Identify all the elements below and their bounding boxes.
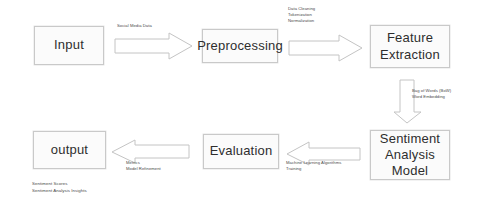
arrow-input-to-preprocessing	[115, 33, 193, 59]
node-feature-extraction[interactable]: Feature Extraction	[370, 25, 450, 68]
node-sentiment-analysis-model[interactable]: Sentiment Analysis Model	[370, 130, 450, 180]
flowchart-canvas: Input Social Media Data Preprocessing Da…	[0, 0, 494, 206]
node-preprocessing-label: Preprocessing	[193, 38, 287, 54]
output-caption: Sentiment Scores Sentiment Analysis Insi…	[32, 181, 142, 194]
node-input[interactable]: Input	[34, 26, 104, 65]
node-feature-extraction-label: Feature Extraction	[376, 30, 444, 63]
node-evaluation[interactable]: Evaluation	[203, 134, 279, 169]
edge-label-machine-learning: Machine Learning Algorithms Training	[286, 160, 364, 172]
arrow-feature-extraction-to-model	[394, 80, 422, 124]
node-sentiment-analysis-model-label: Sentiment Analysis Model	[376, 131, 444, 180]
edge-label-metrics: Metrics Model Refinement	[126, 160, 196, 172]
node-preprocessing[interactable]: Preprocessing	[202, 29, 278, 63]
node-input-label: Input	[50, 37, 88, 53]
arrow-preprocessing-to-feature-extraction	[289, 35, 363, 61]
edge-label-bag-of-words: Bag of Words (BoW) Word Embedding	[412, 88, 488, 100]
node-output-label: output	[47, 142, 92, 158]
edge-label-social-media-data: Social Media Data	[117, 23, 187, 29]
node-evaluation-label: Evaluation	[206, 143, 277, 159]
node-output[interactable]: output	[33, 131, 106, 169]
edge-label-data-cleaning: Data Cleaning Tokenization Normalization	[288, 6, 360, 24]
